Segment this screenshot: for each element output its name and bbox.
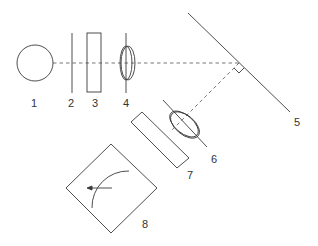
arc-icon — [92, 171, 129, 208]
label-3: 3 — [92, 97, 98, 109]
reflected-beam — [170, 63, 239, 132]
label-4: 4 — [123, 97, 129, 109]
component-3-rect — [87, 33, 101, 92]
label-1: 1 — [31, 97, 37, 109]
optical-diagram: 1 2 3 4 5 6 7 8 — [0, 0, 318, 246]
component-6-lens — [163, 100, 207, 147]
component-5-mirror — [188, 13, 290, 112]
label-8: 8 — [142, 218, 148, 230]
label-6: 6 — [211, 153, 217, 165]
label-5: 5 — [294, 116, 300, 128]
right-angle-marker — [234, 68, 244, 73]
component-7-rect — [131, 112, 189, 168]
component-1-circle — [17, 45, 53, 81]
label-2: 2 — [68, 97, 74, 109]
label-7: 7 — [187, 169, 193, 181]
